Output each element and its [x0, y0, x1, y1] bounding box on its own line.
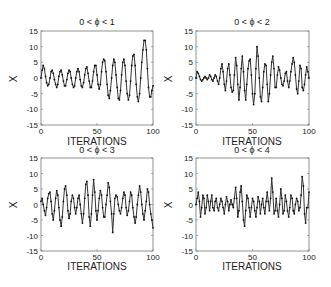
- data-point-marker: [281, 197, 283, 199]
- x-tick-label: 0: [39, 253, 44, 262]
- x-tick-label: 0: [194, 253, 199, 262]
- data-point-marker: [86, 180, 88, 182]
- data-point-marker: [138, 194, 140, 196]
- data-point-marker: [51, 213, 53, 215]
- y-tick-label: 10: [29, 170, 38, 179]
- data-point-marker: [88, 216, 90, 218]
- data-point-marker: [230, 199, 232, 201]
- data-point-marker: [152, 85, 154, 87]
- data-point-marker: [223, 213, 225, 215]
- data-point-marker: [280, 77, 282, 79]
- data-point-marker: [129, 94, 131, 96]
- data-point-marker: [48, 193, 50, 195]
- data-point-marker: [111, 213, 113, 215]
- data-point-marker: [59, 71, 61, 73]
- data-point-marker: [261, 204, 263, 206]
- figure: 0 < ϕ < 1 151050-5-10-15 050100 X ITERAT…: [0, 0, 331, 287]
- data-point-marker: [278, 66, 280, 68]
- data-point-marker: [279, 204, 281, 206]
- data-point-marker: [204, 76, 206, 78]
- data-point-marker: [79, 204, 81, 206]
- data-point-marker: [292, 57, 294, 59]
- data-point-marker: [98, 197, 100, 199]
- data-point-marker: [297, 93, 299, 95]
- data-point-marker: [196, 71, 198, 73]
- data-point-marker: [75, 213, 77, 215]
- data-point-marker: [252, 197, 254, 199]
- data-point-marker: [91, 213, 93, 215]
- data-point-marker: [245, 99, 247, 101]
- data-point-marker: [150, 96, 152, 98]
- data-point-marker: [84, 74, 86, 76]
- data-point-marker: [42, 204, 44, 206]
- data-point-marker: [134, 222, 136, 224]
- data-point-marker: [222, 207, 224, 209]
- data-point-marker: [58, 207, 60, 209]
- data-series: [195, 46, 310, 106]
- data-point-marker: [196, 197, 198, 199]
- data-point-marker: [40, 201, 42, 203]
- data-point-marker: [131, 65, 133, 67]
- data-point-marker: [123, 58, 125, 60]
- data-point-marker: [202, 194, 204, 196]
- data-point-marker: [195, 204, 197, 206]
- data-point-marker: [97, 83, 99, 85]
- data-point-marker: [230, 87, 232, 89]
- data-point-marker: [307, 71, 309, 73]
- data-point-marker: [278, 216, 280, 218]
- data-point-marker: [255, 216, 257, 218]
- data-point-marker: [237, 83, 239, 85]
- data-point-marker: [108, 98, 110, 100]
- data-point-marker: [213, 210, 215, 212]
- data-point-marker: [52, 72, 54, 74]
- data-point-marker: [299, 65, 301, 67]
- data-point-marker: [93, 71, 95, 73]
- data-point-marker: [202, 79, 204, 81]
- data-point-marker: [104, 216, 106, 218]
- data-point-marker: [205, 207, 207, 209]
- data-point-marker: [82, 222, 84, 224]
- data-point-marker: [260, 213, 262, 215]
- data-point-marker: [240, 68, 242, 70]
- data-point-marker: [107, 94, 109, 96]
- data-point-marker: [213, 77, 215, 79]
- data-point-marker: [145, 201, 147, 203]
- y-axis-label: X: [8, 75, 19, 82]
- data-point-marker: [290, 71, 292, 73]
- data-point-marker: [133, 216, 135, 218]
- data-point-marker: [239, 87, 241, 89]
- data-point-marker: [65, 185, 67, 187]
- data-point-marker: [258, 77, 260, 79]
- data-point-marker: [122, 197, 124, 199]
- data-point-marker: [49, 77, 51, 79]
- data-point-marker: [54, 79, 56, 81]
- series-line: [41, 180, 153, 233]
- data-point-marker: [76, 71, 78, 73]
- data-point-marker: [234, 197, 236, 199]
- data-point-marker: [45, 214, 47, 216]
- data-point-marker: [95, 65, 97, 67]
- y-tick-label: 5: [34, 185, 39, 194]
- data-point-marker: [273, 213, 275, 215]
- panel-3: 0 < ϕ < 3 151050-5-10-15 050100 X ITERAT…: [8, 145, 160, 272]
- data-point-marker: [66, 79, 68, 81]
- data-point-marker: [200, 216, 202, 218]
- data-point-marker: [206, 79, 208, 81]
- data-point-marker: [218, 83, 220, 85]
- data-point-marker: [226, 80, 228, 82]
- data-point-marker: [219, 204, 221, 206]
- data-point-marker: [210, 76, 212, 78]
- data-point-marker: [243, 71, 245, 73]
- data-point-marker: [116, 196, 118, 198]
- data-point-marker: [44, 68, 46, 70]
- data-point-marker: [147, 188, 149, 190]
- data-point-marker: [218, 210, 220, 212]
- x-tick-label: 100: [146, 253, 160, 262]
- data-point-marker: [83, 82, 85, 84]
- data-point-marker: [78, 194, 80, 196]
- data-point-marker: [76, 207, 78, 209]
- y-tick-label: -5: [31, 90, 39, 99]
- data-point-marker: [256, 207, 258, 209]
- y-tick-label: 0: [189, 74, 194, 83]
- data-point-marker: [236, 197, 238, 199]
